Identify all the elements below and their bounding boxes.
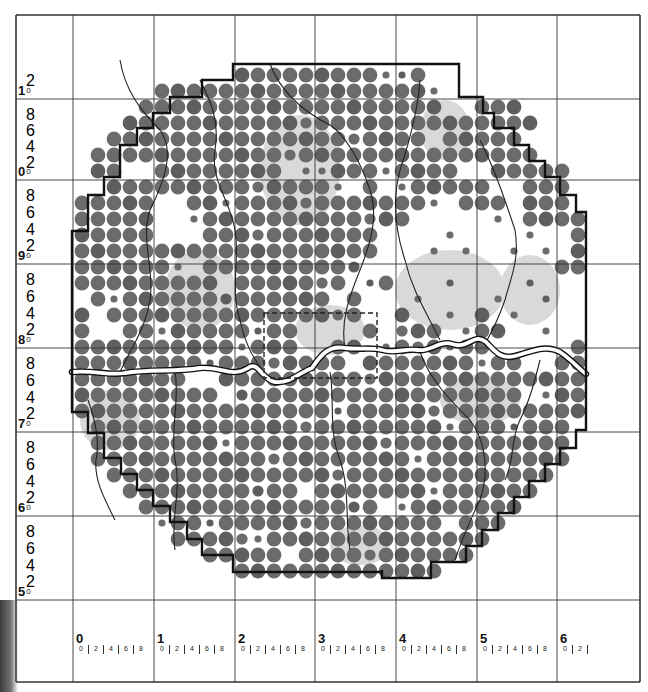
x-minor-label: 6 [526,645,534,653]
population-dot [411,484,426,499]
population-dot [139,100,154,115]
population-dot [123,196,138,211]
population-dot [254,327,261,334]
population-dot [171,500,186,515]
population-dot [283,116,298,131]
population-dot [347,516,362,531]
population-dot [299,532,314,547]
population-dot [331,196,346,211]
population-dot [491,372,506,387]
y-major-label: 60 [18,501,31,514]
population-dot [395,100,410,115]
population-dot [235,196,250,211]
population-dot [363,84,378,99]
population-dot [187,308,202,323]
x-minor-label: 2 [92,645,100,653]
population-dot [251,516,266,531]
population-dot [331,260,346,275]
population-dot [123,484,138,499]
x-minor-label: 8 [379,645,387,653]
population-dot [219,244,234,259]
population-dot [91,244,106,259]
population-dot [299,548,314,563]
population-dot [491,436,506,451]
population-dot [123,180,138,195]
population-dot [187,436,202,451]
population-dot [347,100,362,115]
population-dot [155,84,170,99]
population-dot [235,484,250,499]
population-dot [507,388,522,403]
population-dot [268,453,279,464]
population-dot [491,468,506,483]
population-dot [379,132,394,147]
population-dot [299,100,314,115]
population-dot [267,132,282,147]
population-dot [219,500,234,515]
population-dot [267,212,282,227]
population-dot [411,164,426,179]
population-dot [251,308,266,323]
x-minor-label: 4 [188,645,196,653]
population-dot [283,388,298,403]
population-dot [427,500,442,515]
population-dot [379,84,394,99]
population-dot [238,343,245,350]
population-dot [251,100,266,115]
population-dot [203,292,218,307]
population-dot [331,164,346,179]
population-dot [171,484,186,499]
population-dot [203,228,218,243]
population-dot [331,436,346,451]
population-dot [363,484,378,499]
population-dot [171,180,186,195]
population-dot [315,548,330,563]
population-dot [523,116,538,131]
population-dot [283,260,298,275]
population-dot [347,468,362,483]
population-dot [107,260,122,275]
population-dot [347,68,362,83]
population-dot [379,356,394,371]
population-dot [347,244,362,259]
population-dot [427,116,442,131]
population-dot [91,196,106,211]
population-dot [315,292,330,307]
population-dot [459,452,474,467]
population-dot [427,436,442,451]
population-dot [411,548,426,563]
population-dot [443,532,458,547]
population-dot [427,356,442,371]
population-dot [155,292,170,307]
population-dot [427,100,442,115]
population-dot [107,468,122,483]
population-dot [363,148,378,163]
population-dot [523,212,538,227]
x-minor-ticks: 02468 [319,645,387,654]
population-dot [235,116,250,131]
population-dot [395,84,410,99]
population-dot [299,292,314,307]
y-minor-label: 4 [26,473,35,491]
population-dot [379,532,394,547]
x-minor-ticks: 02468 [400,645,468,654]
population-dot [123,436,138,451]
x-minor-label: 0 [400,645,408,653]
population-dot [395,564,410,579]
population-dot [283,436,298,451]
population-dot [299,244,314,259]
population-dot [174,263,181,270]
population-dot [411,388,426,403]
population-dot [139,468,154,483]
x-minor-label: 6 [203,645,211,653]
population-dot [363,388,378,403]
population-dot [395,388,410,403]
population-dot [523,196,538,211]
population-dot [395,132,410,147]
x-minor-ticks: 02468 [158,645,226,654]
population-dot [315,404,330,419]
population-dot [251,388,266,403]
population-dot [155,468,170,483]
population-dot [267,68,282,83]
population-dot [235,228,250,243]
